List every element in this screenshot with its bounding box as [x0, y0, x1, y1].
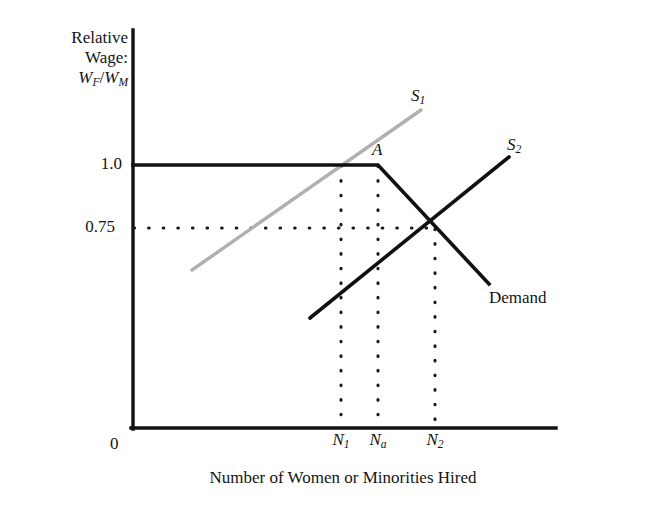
w-f-subscript: F [92, 76, 99, 89]
curve-demand [133, 165, 489, 284]
y-axis-title: Relative Wage: WF/WM [36, 28, 128, 88]
s-symbol: S [411, 86, 420, 105]
y-tick-label-0.75: 0.75 [55, 217, 115, 237]
s1-subscript: 1 [420, 94, 426, 107]
na-subscript: a [381, 438, 387, 451]
s2-subscript: 2 [516, 143, 522, 156]
x-tick-label-n2: N2 [412, 430, 458, 450]
s-symbol: S [507, 135, 516, 154]
n2-subscript: 2 [438, 438, 444, 451]
x-axis-title: Number of Women or Minorities Hired [131, 468, 555, 488]
n-symbol: N [332, 430, 343, 449]
origin-label: 0 [110, 434, 119, 454]
x-tick-label-na: Na [355, 430, 401, 450]
n-symbol: N [426, 430, 437, 449]
y-tick-label-1.0: 1.0 [62, 154, 122, 174]
y-axis-title-ratio: WF/WM [36, 68, 128, 88]
economics-supply-demand-figure: Relative Wage: WF/WM 1.0 0.75 0 N1 Na N2… [0, 0, 662, 512]
curve-label-s1: S1 [411, 86, 425, 106]
curve-label-s2: S2 [507, 135, 521, 155]
w-m-symbol: W [104, 68, 118, 87]
n-symbol: N [369, 430, 380, 449]
w-f-symbol: W [78, 68, 92, 87]
y-axis-title-line2: Wage: [36, 48, 128, 68]
curve-s1 [192, 110, 421, 270]
y-axis-title-line1: Relative [36, 28, 128, 48]
n1-subscript: 1 [344, 438, 350, 451]
w-m-subscript: M [118, 76, 128, 89]
point-label-a: A [372, 140, 382, 160]
curve-label-demand: Demand [489, 288, 547, 308]
